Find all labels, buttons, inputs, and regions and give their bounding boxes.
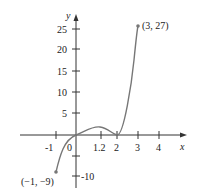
x-tick-label: 0 (67, 142, 72, 153)
x-axis-label: x (179, 141, 185, 152)
y-axis-label: y (65, 10, 71, 21)
x-tick-label: -1 (45, 142, 53, 153)
y-tick-label: 5 (62, 108, 67, 119)
y-tick-label: 20 (57, 44, 67, 55)
y-tick-label: 10 (57, 87, 67, 98)
endpoint-marker (54, 170, 58, 174)
y-tick-label: -10 (81, 171, 94, 182)
x-axis-arrow-icon (180, 133, 187, 138)
x-tick-label: 3 (135, 142, 140, 153)
y-axis-arrow-icon (74, 14, 79, 21)
x-tick-label: 4 (156, 142, 161, 153)
endpoint-marker (136, 24, 140, 28)
y-tick-label: 15 (57, 66, 67, 77)
y-tick-label: 25 (57, 24, 67, 35)
x-tick-label: 1.2 (93, 142, 106, 153)
x-tick-label: 2 (114, 142, 119, 153)
chart: -1 0 1.2 2 3 4 25 20 15 10 5 -10 x y (3,… (0, 0, 210, 191)
annotation-label: (3, 27) (142, 20, 169, 32)
annotation-label: (−1, −9) (21, 176, 54, 188)
